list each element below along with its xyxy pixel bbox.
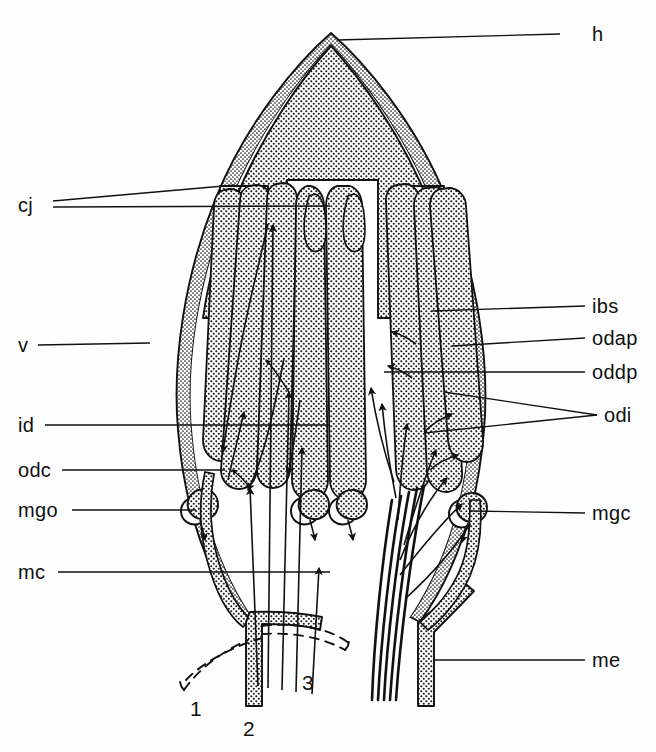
label-mc: mc — [18, 562, 45, 582]
label-odi: odi — [604, 405, 632, 425]
numeral-1: 1 — [190, 698, 202, 719]
label-ibs: ibs — [592, 296, 618, 316]
leader-line-h — [337, 34, 560, 40]
numeral-3: 3 — [302, 672, 314, 693]
anatomy-illustration — [0, 0, 656, 752]
label-oddp: oddp — [592, 362, 638, 382]
figure-canvas: h ibs odap oddp odi mgc me cj v id odc m… — [0, 0, 656, 752]
label-odc: odc — [18, 460, 51, 480]
dashed-reference-arcs — [180, 625, 350, 690]
label-mgc: mgc — [592, 503, 631, 523]
label-h: h — [592, 24, 603, 44]
leader-line-v — [38, 343, 150, 345]
label-id: id — [18, 415, 34, 435]
leader-line-cj — [53, 185, 235, 201]
numeral-2: 2 — [243, 718, 255, 739]
central-paired-caeca — [292, 186, 366, 500]
label-v: v — [18, 335, 28, 355]
label-me: me — [592, 650, 620, 670]
label-cj: cj — [18, 195, 33, 215]
label-mgo: mgo — [18, 500, 58, 520]
label-odap: odap — [592, 328, 638, 348]
